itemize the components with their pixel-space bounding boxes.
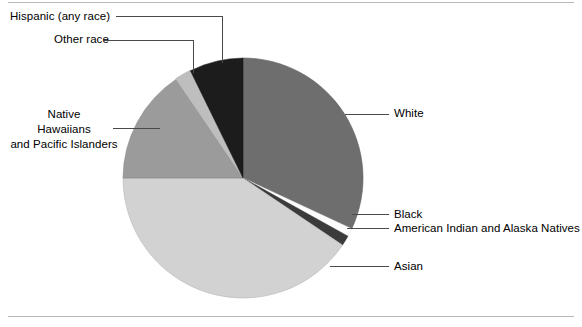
label-native-line-1: Native xyxy=(8,107,120,122)
label-native-line-2: Hawaiians xyxy=(8,122,120,137)
label-white: White xyxy=(394,107,424,121)
label-american-indian-and-alaska-natives: American Indian and Alaska Natives xyxy=(394,222,580,236)
pie-chart-figure: Hispanic (any race) Other race Native Ha… xyxy=(0,0,582,327)
leader-line-other-race xyxy=(104,40,193,73)
pie-slices xyxy=(123,58,363,298)
pie-chart-svg xyxy=(0,0,582,327)
label-other-race: Other race xyxy=(54,33,109,47)
label-asian: Asian xyxy=(394,260,423,274)
label-black: Black xyxy=(394,208,422,222)
label-native-line-3: and Pacific Islanders xyxy=(8,137,120,152)
label-hispanic-any-race: Hispanic (any race) xyxy=(10,10,110,24)
label-native-hawaiians-and-pacific-islanders: Native Hawaiians and Pacific Islanders xyxy=(8,107,120,152)
